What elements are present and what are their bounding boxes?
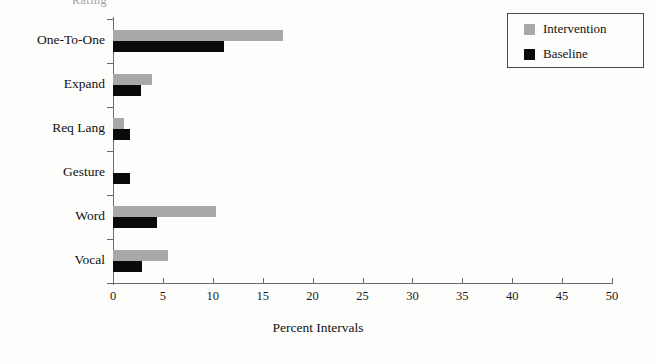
x-tick-label: 20 [298, 289, 328, 304]
y-tick [107, 195, 113, 196]
bar-baseline-word [113, 217, 157, 228]
bar-intervention-req-lang [113, 118, 124, 129]
bar-intervention-expand [113, 74, 152, 85]
y-tick [107, 283, 113, 284]
x-tick [562, 278, 563, 284]
bar-intervention-vocal [113, 250, 168, 261]
x-axis-title-text: Percent Intervals [272, 320, 363, 335]
x-tick [263, 278, 264, 284]
x-tick [113, 278, 114, 284]
y-tick [107, 151, 113, 152]
legend-swatch-icon-baseline [524, 49, 535, 60]
chart-title-fragment: Rating [72, 0, 107, 8]
y-category-label: Req Lang [52, 120, 105, 136]
y-category-label: One-To-One [37, 32, 105, 48]
y-category-label: Expand [64, 76, 105, 92]
legend-item-baseline: Baseline [524, 46, 643, 62]
x-tick [163, 278, 164, 284]
x-tick [612, 278, 613, 284]
y-category-label: Vocal [75, 252, 106, 268]
x-tick-label: 0 [98, 289, 128, 304]
x-tick-label: 10 [198, 289, 228, 304]
x-tick [512, 278, 513, 284]
x-tick [412, 278, 413, 284]
legend-label-intervention: Intervention [543, 21, 607, 37]
x-tick-label: 30 [397, 289, 427, 304]
y-tick [107, 19, 113, 20]
y-tick [107, 63, 113, 64]
bar-chart: Rating 05101520253035404550 One-To-OneEx… [0, 0, 656, 364]
y-tick [107, 107, 113, 108]
bar-baseline-req-lang [113, 129, 130, 140]
bar-baseline-expand [113, 85, 141, 96]
x-tick-label: 50 [597, 289, 627, 304]
x-tick-label: 45 [547, 289, 577, 304]
x-tick [363, 278, 364, 284]
x-tick [213, 278, 214, 284]
bar-baseline-gesture [113, 173, 130, 184]
legend-item-intervention: Intervention [524, 21, 643, 37]
bar-intervention-one-to-one [113, 30, 283, 41]
y-category-label: Gesture [63, 164, 105, 180]
x-tick [462, 278, 463, 284]
chart-legend: Intervention Baseline [507, 13, 644, 68]
bar-intervention-word [113, 206, 216, 217]
y-tick [107, 239, 113, 240]
x-tick-label: 15 [248, 289, 278, 304]
legend-label-baseline: Baseline [543, 46, 588, 62]
x-tick-label: 35 [447, 289, 477, 304]
y-category-label: Word [75, 208, 105, 224]
legend-swatch-icon-intervention [524, 24, 535, 35]
x-tick [313, 278, 314, 284]
x-axis-title: Percent Intervals [0, 320, 656, 336]
bar-baseline-vocal [113, 261, 142, 272]
x-tick-label: 5 [148, 289, 178, 304]
x-tick-label: 40 [497, 289, 527, 304]
bar-baseline-one-to-one [113, 41, 224, 52]
x-tick-label: 25 [348, 289, 378, 304]
y-axis-line [113, 17, 114, 285]
